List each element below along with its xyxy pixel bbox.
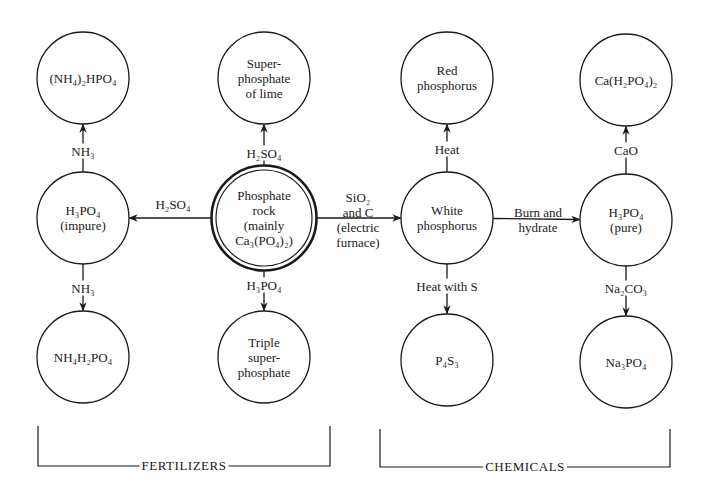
reagent-label-h3po4_impure-to-nh4h2po4: NH₃	[70, 281, 95, 296]
node-label-line: H₃PO₄	[60, 203, 105, 218]
node-label-triple_superphosphate: Triplesuper-phosphate	[238, 335, 291, 380]
node-label-line: (NH₄)₂HPO₄	[49, 71, 116, 86]
node-label-line: (mainly	[235, 218, 293, 233]
node-label-line: phosphorus	[417, 78, 477, 93]
node-label-nh4h2po4: NH₄H₂PO₄	[54, 350, 112, 365]
node-label-line: of lime	[238, 86, 291, 101]
node-label-line: Ca(H₂PO₄)₂	[595, 73, 658, 88]
reagent-label-white_phosphorus-to-red_phosphorus: Heat	[434, 142, 461, 157]
node-label-superphosphate_of_lime: Super-phosphateof lime	[238, 56, 291, 101]
node-label-h3po4_pure: H₃PO₄(pure)	[608, 205, 643, 235]
reagent-line: NH₃	[71, 281, 94, 296]
reagent-line: NH₃	[71, 144, 94, 159]
reagent-line: Heat	[435, 142, 460, 157]
reagent-label-phosphate_rock-to-triple_superphosphate: H₃PO₄	[245, 278, 282, 293]
node-label-line: H₃PO₄	[608, 205, 643, 220]
node-label-line: Triple	[238, 335, 291, 350]
reagent-label-phosphate_rock-to-h3po4_impure: H₂SO₄	[154, 197, 191, 212]
node-label-ca_h2po4_2: Ca(H₂PO₄)₂	[595, 73, 658, 88]
reagent-line: (electric	[336, 220, 379, 235]
reagent-line: H₂SO₄	[246, 146, 281, 161]
node-label-line: Ca₃(PO₄)₂)	[235, 233, 293, 248]
reagent-line: H₂SO₄	[155, 197, 190, 212]
reagent-label-phosphate_rock-to-superphosphate_of_lime: H₂SO₄	[245, 146, 282, 161]
node-label-line: Na₃PO₄	[606, 355, 647, 370]
node-label-red_phosphorus: Redphosphorus	[417, 63, 477, 93]
node-label-line: rock	[235, 203, 293, 218]
node-label-na3po4: Na₃PO₄	[606, 355, 647, 370]
node-label-line: phosphate	[238, 365, 291, 380]
node-label-line: White	[417, 203, 477, 218]
node-label-line: NH₄H₂PO₄	[54, 350, 112, 365]
node-label-line: P₄S₃	[435, 353, 459, 368]
reagent-line: Burn and	[514, 205, 562, 220]
node-label-line: Red	[417, 63, 477, 78]
reagent-line: and C	[336, 205, 379, 220]
reagent-label-h3po4_pure-to-ca_h2po4_2: CaO	[613, 143, 639, 158]
node-label-line: (pure)	[608, 220, 643, 235]
node-label-nh4_2hpo4: (NH₄)₂HPO₄	[49, 71, 116, 86]
groups-layer	[38, 426, 670, 467]
reagent-line: H₃PO₄	[246, 278, 281, 293]
reagent-line: SiO₂	[336, 190, 379, 205]
node-label-line: phosphate	[238, 71, 291, 86]
node-label-p4s3: P₄S₃	[435, 353, 459, 368]
node-label-white_phosphorus: Whitephosphorus	[417, 203, 477, 233]
node-label-phosphate_rock: Phosphaterock(mainlyCa₃(PO₄)₂)	[235, 188, 293, 248]
reagent-line: CaO	[614, 143, 638, 158]
reagent-line: hydrate	[514, 220, 562, 235]
reagent-line: Na₂CO₃	[605, 281, 647, 296]
node-label-line: Super-	[238, 56, 291, 71]
node-label-h3po4_impure: H₃PO₄(impure)	[60, 203, 105, 233]
reagent-line: Heat with S	[416, 279, 477, 294]
reagent-label-h3po4_impure-to-nh4_2hpo4: NH₃	[70, 144, 95, 159]
node-label-line: phosphorus	[417, 218, 477, 233]
group-label-fertilizers: FERTILIZERS	[140, 458, 229, 474]
reagent-label-h3po4_pure-to-na3po4: Na₂CO₃	[604, 281, 648, 296]
reagent-label-phosphate_rock-to-white_phosphorus: SiO₂and C(electricfurnace)	[335, 190, 380, 250]
reagent-label-white_phosphorus-to-h3po4_pure: Burn andhydrate	[513, 205, 563, 235]
node-label-line: (impure)	[60, 218, 105, 233]
reagent-line: furnace)	[336, 235, 379, 250]
node-label-line: super-	[238, 350, 291, 365]
group-label-chemicals: CHEMICALS	[483, 459, 567, 475]
node-label-line: Phosphate	[235, 188, 293, 203]
reagent-label-white_phosphorus-to-p4s3: Heat with S	[415, 279, 478, 294]
